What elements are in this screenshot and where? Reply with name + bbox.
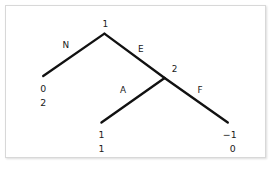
leaf-middle-top-value: 1 <box>98 129 104 140</box>
internal-node-label: 2 <box>172 64 178 74</box>
tree-edge-f <box>165 78 228 122</box>
edge-label-f: F <box>198 85 203 95</box>
edge-label-a: A <box>120 85 126 95</box>
root-node-label: 1 <box>103 19 109 29</box>
edge-label-e: E <box>138 44 144 54</box>
edge-label-n: N <box>63 40 70 50</box>
diagram-frame: 1 2 N E A F 0 2 1 1 −1 0 <box>5 5 266 158</box>
leaf-left-bottom-value: 2 <box>40 97 46 108</box>
tree-edge-e <box>104 34 164 78</box>
leaf-right-top-value: −1 <box>223 129 237 140</box>
tree-edge-a <box>101 78 164 122</box>
tree-diagram: 1 2 N E A F 0 2 1 1 −1 0 <box>6 6 265 157</box>
leaf-right-bottom-value: 0 <box>230 143 236 154</box>
tree-edge-n <box>43 34 104 76</box>
leaf-left-top-value: 0 <box>40 83 46 94</box>
leaf-middle-bottom-value: 1 <box>98 143 104 154</box>
